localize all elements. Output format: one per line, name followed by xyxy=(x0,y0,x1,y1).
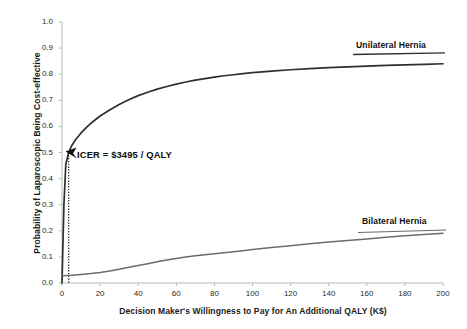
x-tick-label: 20 xyxy=(85,289,115,298)
x-tick-label: 200 xyxy=(428,289,458,298)
y-tick-label: 0.0 xyxy=(31,278,53,287)
y-tick-label: 0.8 xyxy=(31,69,53,78)
x-axis-title: Decision Maker's Willingness to Pay for … xyxy=(62,306,444,316)
series-label-bilateral: Bilateral Hernia xyxy=(362,216,427,226)
x-tick-label: 180 xyxy=(390,289,420,298)
x-tick-label: 120 xyxy=(276,289,306,298)
y-tick-label: 0.1 xyxy=(31,252,53,261)
unilateral-label-underline xyxy=(353,53,445,55)
y-tick-label: 0.5 xyxy=(31,148,53,157)
y-tick-label: 0.4 xyxy=(31,174,53,183)
x-tick-label: 160 xyxy=(352,289,382,298)
y-tick-label: 0.2 xyxy=(31,226,53,235)
x-tick-label: 0 xyxy=(47,289,77,298)
x-tick-label: 140 xyxy=(314,289,344,298)
y-tick-label: 0.6 xyxy=(31,121,53,130)
x-tick-label: 80 xyxy=(199,289,229,298)
icer-annotation-text: ICER = $3495 / QALY xyxy=(77,149,172,160)
cost-effectiveness-acceptability-chart: Probability of Laparoscopic Being Cost-e… xyxy=(0,0,467,329)
x-tick-label: 60 xyxy=(161,289,191,298)
y-tick-label: 0.7 xyxy=(31,95,53,104)
series-label-unilateral: Unilateral Hernia xyxy=(356,40,426,50)
y-tick-label: 0.9 xyxy=(31,43,53,52)
series-line-bilateral xyxy=(62,233,443,276)
y-tick-label: 1.0 xyxy=(31,17,53,26)
bilateral-label-underline xyxy=(358,230,446,233)
x-tick-label: 40 xyxy=(123,289,153,298)
x-tick-label: 100 xyxy=(238,289,268,298)
y-tick-label: 0.3 xyxy=(31,200,53,209)
